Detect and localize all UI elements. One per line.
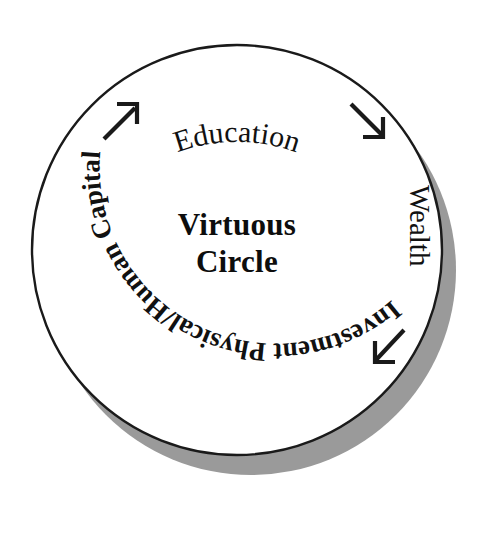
node-label-wealth: Wealth [404, 185, 436, 267]
center-title-line2: Circle [196, 244, 278, 279]
diagram-canvas: Education Investment Physical/Human Capi… [0, 0, 496, 541]
node-label-wealth-group: Wealth [404, 185, 436, 267]
center-title-line1: Virtuous [178, 207, 296, 242]
virtuous-circle-diagram: Education Investment Physical/Human Capi… [0, 0, 496, 541]
